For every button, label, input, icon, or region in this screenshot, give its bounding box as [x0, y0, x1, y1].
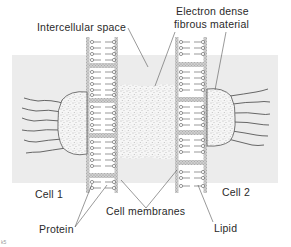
label-cell-2: Cell 2 [222, 186, 250, 198]
label-intercellular-space: Intercellular space [37, 21, 126, 33]
right-cell-membrane [175, 37, 207, 193]
label-protein: Protein [39, 223, 74, 235]
cell-junction-diagram: Intercellular space Electron dense fibro… [0, 0, 291, 247]
corner-mark: k5 [1, 239, 6, 245]
label-electron-dense-line1: Electron dense [176, 5, 249, 17]
label-cell-membranes: Cell membranes [106, 205, 185, 217]
label-cell-1: Cell 1 [35, 188, 63, 200]
electron-dense-fibrous-material [118, 84, 175, 160]
label-electron-dense-line2: fibrous material [174, 18, 249, 30]
label-lipid: Lipid [214, 222, 237, 234]
left-cell-membrane [86, 37, 118, 193]
